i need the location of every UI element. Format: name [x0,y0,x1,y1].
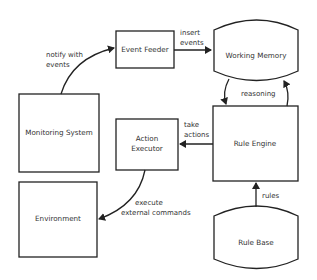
node-working-memory: Working Memory [214,20,298,81]
node-event-feeder: Event Feeder [116,31,174,68]
edge-notify-label-line2: events [46,61,70,69]
edge-take-label-line2: actions [184,131,210,139]
edge-rules-label: rules [262,192,280,200]
edge-insert-label-line2: events [180,39,204,47]
rule-engine-label: Rule Engine [234,139,277,148]
edge-take-label-line1: take [184,121,199,129]
node-environment: Environment [19,182,97,257]
edge-rules: rules [256,183,280,207]
event-feeder-label: Event Feeder [121,45,168,54]
edge-insert-label-line1: insert [180,29,200,37]
node-monitoring-system: Monitoring System [19,94,99,172]
monitoring-system-label: Monitoring System [25,128,93,137]
edge-insert-events: insert events [174,29,211,50]
architecture-diagram: Event Feeder Working Memory Monitoring S… [0,0,317,280]
edge-take-actions: take actions [180,121,213,144]
rule-base-label: Rule Base [238,238,274,247]
edge-execute-label-line1: execute [135,199,163,207]
edge-reasoning-up [284,81,288,106]
edge-reasoning-down [225,79,229,104]
environment-label: Environment [35,214,81,223]
action-executor-label-line2: Executor [131,144,163,153]
action-executor-label-line1: Action [136,134,159,143]
working-memory-label: Working Memory [226,51,288,60]
edge-reasoning-label: reasoning [241,90,276,98]
edge-notify-label-line1: notify with [46,51,83,59]
node-rule-base: Rule Base [214,206,298,269]
edge-execute-external-commands: execute external commands [99,170,191,219]
edge-execute-label-line2: external commands [121,209,191,217]
node-action-executor: Action Executor [116,119,178,170]
edge-notify-with-events: notify with events [46,48,114,94]
node-rule-engine: Rule Engine [213,106,298,181]
